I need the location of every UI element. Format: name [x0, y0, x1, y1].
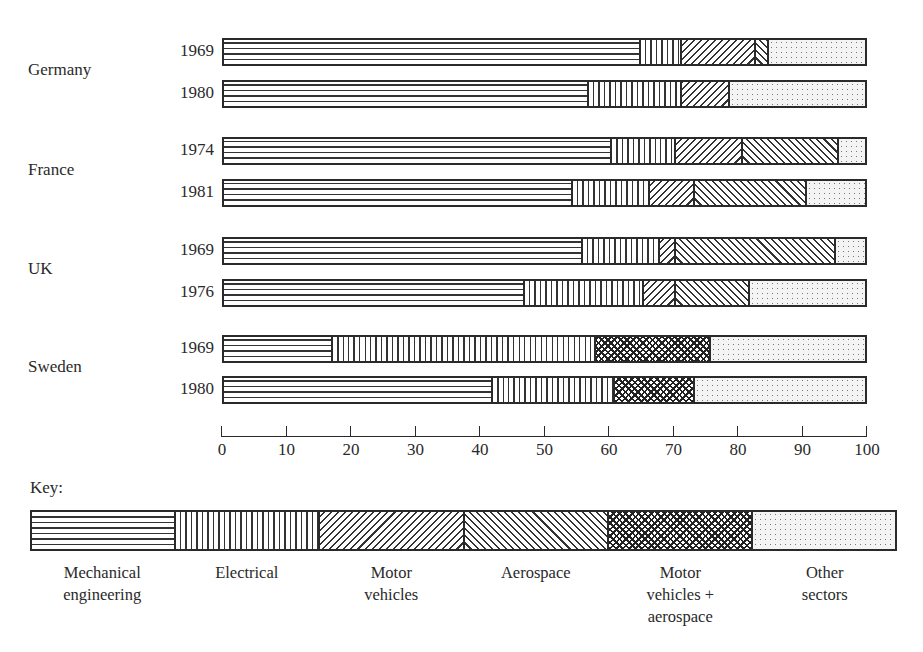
legend-label-motor: Motor vehicles [319, 562, 464, 628]
legend-label-aero: Aerospace [464, 562, 609, 628]
x-tick [866, 426, 867, 437]
legend-label-mech: Mechanical engineering [30, 562, 175, 628]
legend-labels: Mechanical engineeringElectricalMotor ve… [30, 562, 897, 628]
bar-segment-elec [583, 239, 660, 263]
x-tick [286, 426, 287, 437]
legend-swatch-motor [320, 512, 464, 549]
legend-swatch-aero [465, 512, 609, 549]
bar-segment-elec [641, 40, 683, 64]
year-label: 1980 [160, 379, 214, 399]
bar-segment-motor [660, 239, 676, 263]
year-label: 1969 [160, 41, 214, 61]
bar-segment-aero [756, 40, 769, 64]
country-label: Sweden [28, 357, 82, 377]
x-tick [802, 426, 803, 437]
x-axis [222, 420, 867, 440]
bar-segment-elec [333, 337, 596, 361]
bar-segment-motor [682, 40, 756, 64]
x-tick-label: 0 [218, 440, 227, 460]
x-tick-label: 80 [730, 440, 747, 460]
legend-swatches [30, 510, 897, 551]
bar-segment-other [711, 337, 865, 361]
bar-segment-motor [676, 139, 743, 163]
bar-segment-other [839, 139, 865, 163]
stacked-bar [222, 179, 867, 207]
bar-segment-motor [644, 281, 676, 305]
x-tick [221, 426, 222, 437]
stacked-bar [222, 80, 867, 108]
x-tick [415, 426, 416, 437]
year-label: 1974 [160, 140, 214, 160]
x-tick-label: 100 [854, 440, 880, 460]
x-tick [544, 426, 545, 437]
bar-segment-other [769, 40, 865, 64]
x-tick-label: 50 [536, 440, 553, 460]
stacked-bar [222, 137, 867, 165]
x-tick [350, 426, 351, 437]
x-tick [737, 426, 738, 437]
x-tick-label: 60 [601, 440, 618, 460]
x-tick [479, 426, 480, 437]
year-label: 1981 [160, 182, 214, 202]
x-tick-label: 90 [794, 440, 811, 460]
bar-segment-motor [682, 82, 730, 106]
bar-segment-elec [589, 82, 682, 106]
bar-segment-aero [743, 139, 839, 163]
x-tick-label: 30 [407, 440, 424, 460]
stacked-bar [222, 237, 867, 265]
stacked-bar [222, 376, 867, 404]
country-label: Germany [28, 60, 91, 80]
bar-segment-other [730, 82, 865, 106]
bar-segment-mech [224, 337, 333, 361]
bar-segment-mech [224, 378, 493, 402]
year-label: 1969 [160, 338, 214, 358]
x-tick [673, 426, 674, 437]
bar-segment-mech [224, 139, 612, 163]
year-label: 1969 [160, 240, 214, 260]
bar-segment-mech [224, 82, 589, 106]
x-tick-label: 70 [665, 440, 682, 460]
country-label: France [28, 160, 74, 180]
bar-segment-aero [695, 181, 807, 205]
x-tick-label: 20 [343, 440, 360, 460]
stacked-bar [222, 38, 867, 66]
legend-swatch-mvaero [609, 512, 753, 549]
legend-swatch-other [753, 512, 895, 549]
bar-segment-motor [650, 181, 695, 205]
bar-segment-mvaero [615, 378, 695, 402]
year-label: 1976 [160, 282, 214, 302]
x-tick-label: 10 [278, 440, 295, 460]
stacked-bar [222, 335, 867, 363]
bar-segment-mech [224, 40, 641, 64]
bar-segment-elec [493, 378, 615, 402]
legend-label-mvaero: Motor vehicles + aerospace [608, 562, 753, 628]
bar-segment-mech [224, 181, 573, 205]
bar-segment-elec [573, 181, 650, 205]
legend-swatch-mech [32, 512, 176, 549]
country-label: UK [28, 259, 53, 279]
legend-swatch-elec [176, 512, 320, 549]
bar-segment-mvaero [596, 337, 711, 361]
bar-segment-aero [676, 281, 750, 305]
x-tick-label: 40 [472, 440, 489, 460]
stacked-bar [222, 279, 867, 307]
legend-title: Key: [30, 478, 63, 498]
bar-segment-mech [224, 239, 583, 263]
bar-segment-other [750, 281, 865, 305]
bar-segment-elec [612, 139, 676, 163]
bar-segment-mech [224, 281, 525, 305]
legend-label-other: Other sectors [753, 562, 898, 628]
bar-segment-other [836, 239, 865, 263]
bar-segment-other [807, 181, 865, 205]
bar-segment-elec [525, 281, 644, 305]
year-label: 1980 [160, 83, 214, 103]
legend-label-elec: Electrical [175, 562, 320, 628]
bar-segment-other [695, 378, 865, 402]
x-tick [608, 426, 609, 437]
bar-segment-aero [676, 239, 836, 263]
